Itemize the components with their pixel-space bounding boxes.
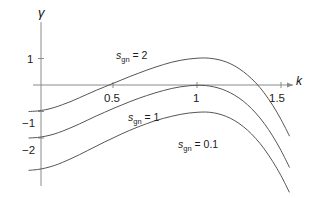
y-tick-label-1: −1: [22, 118, 35, 130]
plot-canvas: [0, 0, 315, 198]
figure-container: γ k 0.5 1 1.5 1 −1 −2 sgn = 2 sgn = 1 sg…: [0, 0, 315, 198]
curve-label-subscript: gn: [133, 117, 141, 126]
curve-label-sgn-2: sgn = 2: [116, 50, 147, 64]
x-tick-label-2: 1.5: [269, 93, 285, 105]
x-tick-label-0: 0.5: [104, 93, 120, 105]
curve-series-1: [29, 85, 289, 167]
curve-label-value: = 1: [145, 111, 160, 123]
y-axis-label: γ: [38, 6, 45, 19]
x-axis-label: k: [296, 75, 302, 87]
curve-label-subscript: gn: [121, 55, 129, 64]
curve-label-value: = 2: [133, 49, 148, 61]
y-tick-label-0: 1: [27, 54, 33, 66]
curve-label-value: = 0.1: [195, 138, 219, 150]
x-axis-arrow: [287, 82, 293, 87]
curve-label-sgn-1: sgn = 1: [128, 112, 159, 126]
y-tick-label-2: −2: [22, 145, 35, 157]
x-tick-label-1: 1: [193, 93, 199, 105]
curve-label-subscript: gn: [183, 144, 191, 153]
axes-group: [33, 22, 293, 186]
curve-label-sgn-01: sgn = 0.1: [178, 139, 218, 153]
